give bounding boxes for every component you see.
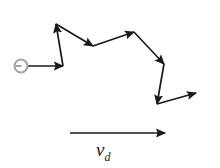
drift-velocity-subscript: d [104,150,110,164]
walk-segment-6 [157,64,164,104]
walk-segment-5 [134,32,164,64]
walk-segment-3 [56,24,93,46]
walk-segment-7 [157,93,196,104]
random-walk-path [28,24,196,104]
physics-diagram: vd [0,0,220,168]
walk-segment-2 [56,24,63,66]
drift-velocity-label: vd [96,140,110,163]
electron-particle-icon [15,60,28,73]
walk-segment-4 [93,32,134,46]
